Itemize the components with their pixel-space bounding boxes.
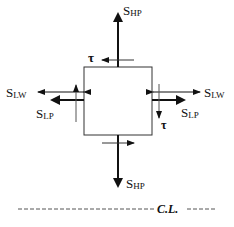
s-hp-top-label: SHP — [123, 3, 142, 18]
s-lp-right-label: SLP — [181, 105, 199, 120]
s-hp-bottom-label: SHP — [126, 176, 145, 191]
s-lw-left-label: SLW — [6, 85, 27, 100]
tau-right-label: τ — [161, 118, 167, 132]
tau-top-label: τ — [88, 50, 94, 65]
stress-element-square — [84, 67, 152, 135]
s-lp-left-label: SLP — [36, 106, 54, 121]
centerline-label: C.L. — [157, 202, 178, 216]
s-lw-right-label: SLW — [204, 85, 225, 100]
stress-element-diagram: SHP τ SHP SLW SLP SLW SLP τ C.L. — [0, 0, 234, 227]
